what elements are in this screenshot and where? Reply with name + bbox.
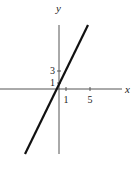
y-axis-label: y [55, 2, 61, 14]
y-tick-label: 1 [50, 77, 55, 88]
x-tick-label: 5 [88, 94, 93, 105]
y-tick-label: 3 [50, 65, 55, 76]
x-tick-label: 1 [64, 94, 69, 105]
x-axis-label: x [124, 83, 130, 95]
chart: 1531 x y [0, 0, 140, 169]
